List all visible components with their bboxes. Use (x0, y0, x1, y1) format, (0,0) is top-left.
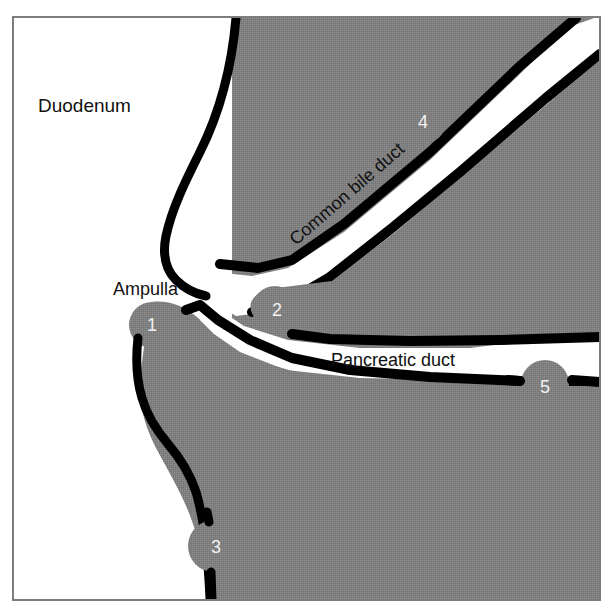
marker-label-3: 3 (211, 537, 221, 557)
label-pancreatic-duct: Pancreatic duct (331, 350, 455, 370)
marker-label-2: 2 (272, 300, 282, 320)
marker-3-outline-gap-bottom (211, 572, 212, 600)
marker-label-4: 4 (418, 112, 428, 132)
diagram-content: Duodenum Ampulla Common bile duct Pancre… (13, 16, 600, 600)
marker-3-outline-gap-top (207, 512, 209, 522)
duct-anatomy-illustration: Duodenum Ampulla Common bile duct Pancre… (0, 0, 613, 615)
anatomical-diagram-figure: Duodenum Ampulla Common bile duct Pancre… (0, 0, 613, 615)
marker-label-1: 1 (147, 315, 157, 335)
marker-5-wall-break (508, 380, 520, 381)
label-ampulla: Ampulla (113, 279, 179, 299)
marker-5-wall-break-right (572, 380, 600, 382)
marker-label-5: 5 (540, 377, 550, 397)
label-duodenum: Duodenum (38, 95, 131, 116)
